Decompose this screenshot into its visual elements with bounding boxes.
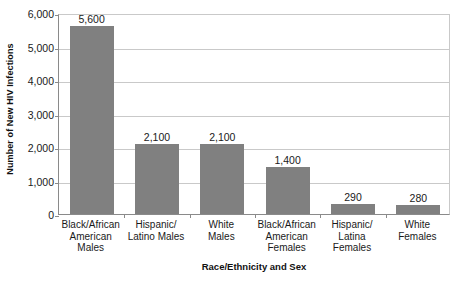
x-axis-tick-label-line: Black/African — [255, 219, 318, 231]
x-axis-tick-mark — [190, 214, 191, 218]
plot-area: 5,6002,1002,1001,400290280 — [58, 14, 450, 215]
bar-value-label: 2,100 — [209, 131, 235, 143]
x-axis-tick-label-line: Hispanic/ — [320, 219, 383, 231]
bar-value-label: 1,400 — [275, 154, 301, 166]
x-axis-tick-label-line: Latino Males — [124, 231, 187, 243]
y-axis-tick-label: 1,000 — [28, 176, 54, 188]
x-axis-tick-label-line: Females — [320, 242, 383, 254]
bar-value-label: 290 — [344, 191, 362, 203]
bar — [135, 144, 179, 214]
x-axis-tick-label-line: Black/African — [59, 219, 122, 231]
x-axis-tick-label-line: Males — [190, 231, 253, 243]
bar-chart: Number of New HIV Infections 01,0002,000… — [0, 0, 461, 281]
y-axis-tick-mark — [55, 149, 59, 150]
x-axis-tick-label: Black/AfricanAmericanMales — [59, 219, 122, 254]
gridline — [59, 116, 449, 117]
x-axis-tick-label-line: Hispanic/ — [124, 219, 187, 231]
x-axis-tick-label-line: American — [255, 231, 318, 243]
bar — [396, 205, 440, 214]
bar — [200, 144, 244, 214]
y-axis-tick-label: 3,000 — [28, 109, 54, 121]
y-axis-title: Number of New HIV Infections — [0, 0, 20, 218]
x-axis-tick-mark — [320, 214, 321, 218]
x-axis-tick-labels: Black/AfricanAmericanMalesHispanic/Latin… — [58, 219, 450, 261]
y-axis-tick-label: 0 — [48, 209, 54, 221]
y-axis-tick-label: 6,000 — [28, 8, 54, 20]
y-axis-tick-mark — [55, 183, 59, 184]
y-axis-tick-mark — [55, 15, 59, 16]
y-axis-tick-labels: 01,0002,0003,0004,0005,0006,000 — [20, 0, 56, 222]
x-axis-tick-label: WhiteFemales — [386, 219, 449, 242]
x-axis-tick-label: Hispanic/Latino Males — [124, 219, 187, 242]
bar — [70, 26, 114, 214]
x-axis-tick-label-line: Males — [59, 242, 122, 254]
x-axis-tick-label: Hispanic/LatinaFemales — [320, 219, 383, 254]
gridline — [59, 49, 449, 50]
bar — [266, 167, 310, 214]
gridline — [59, 149, 449, 150]
y-axis-title-text: Number of New HIV Infections — [5, 43, 15, 174]
y-axis-tick-mark — [55, 82, 59, 83]
x-axis-tick-mark — [124, 214, 125, 218]
x-axis-tick-label-line: Females — [255, 242, 318, 254]
x-axis-tick-mark — [386, 214, 387, 218]
gridline — [59, 183, 449, 184]
bar-value-label: 280 — [410, 192, 428, 204]
bar-value-label: 5,600 — [79, 13, 105, 25]
x-axis-tick-label-line: Females — [386, 231, 449, 243]
bar — [331, 204, 375, 214]
bar-value-label: 2,100 — [144, 131, 170, 143]
x-axis-title: Race/Ethnicity and Sex — [58, 261, 450, 272]
x-axis-tick-label-line: Latina — [320, 231, 383, 243]
x-axis-tick-label-line: American — [59, 231, 122, 243]
y-axis-tick-mark — [55, 49, 59, 50]
y-axis-tick-mark — [55, 116, 59, 117]
y-axis-tick-label: 2,000 — [28, 142, 54, 154]
y-axis-tick-mark — [55, 216, 59, 217]
y-axis-tick-label: 5,000 — [28, 42, 54, 54]
x-axis-tick-mark — [255, 214, 256, 218]
x-axis-tick-label: Black/AfricanAmericanFemales — [255, 219, 318, 254]
x-axis-tick-label-line: White — [190, 219, 253, 231]
x-axis-tick-label-line: White — [386, 219, 449, 231]
x-axis-tick-label: WhiteMales — [190, 219, 253, 242]
gridline — [59, 82, 449, 83]
y-axis-tick-label: 4,000 — [28, 75, 54, 87]
